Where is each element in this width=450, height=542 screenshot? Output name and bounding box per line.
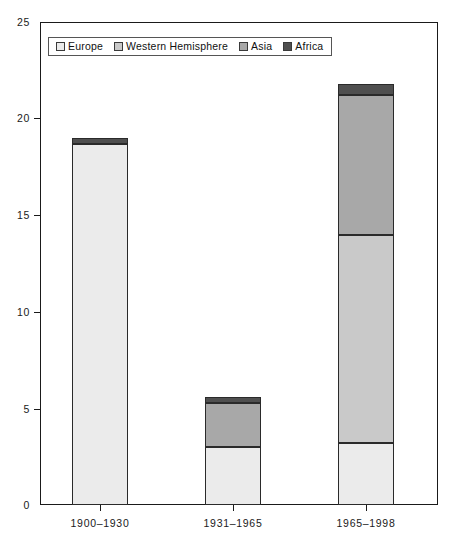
legend-item-europe: Europe <box>56 41 103 52</box>
x-tick-label-1931-1965: 1931–1965 <box>204 517 263 529</box>
legend-swatch-icon-africa <box>283 42 292 51</box>
legend-swatch-icon-western-hemisphere <box>114 42 123 51</box>
y-tick-mark-20 <box>34 118 40 119</box>
legend-swatch-icon-asia <box>239 42 248 51</box>
cut-off-title <box>0 0 450 6</box>
stacked-bar-chart: 25 20 15 10 5 0 <box>0 0 450 542</box>
legend-item-asia: Asia <box>239 41 272 52</box>
x-tick-mark-3 <box>366 505 367 511</box>
y-axis: 25 20 15 10 5 0 <box>0 0 40 542</box>
plot-area <box>40 22 438 505</box>
legend-label-asia: Asia <box>251 41 272 52</box>
x-tick-label-1900-1930: 1900–1930 <box>71 517 130 529</box>
y-tick-label-0: 0 <box>24 499 30 511</box>
legend-swatch-icon-europe <box>56 42 65 51</box>
chart-legend: Europe Western Hemisphere Asia Africa <box>48 37 332 56</box>
y-tick-label-15: 15 <box>17 209 30 221</box>
legend-label-western-hemisphere: Western Hemisphere <box>126 41 228 52</box>
legend-label-europe: Europe <box>68 41 103 52</box>
y-tick-label-5: 5 <box>24 403 30 415</box>
y-tick-label-10: 10 <box>17 306 30 318</box>
x-tick-label-1965-1998: 1965–1998 <box>337 517 396 529</box>
y-tick-label-20: 20 <box>17 112 30 124</box>
legend-item-africa: Africa <box>283 41 323 52</box>
y-tick-mark-15 <box>34 215 40 216</box>
y-tick-mark-5 <box>34 409 40 410</box>
legend-label-africa: Africa <box>295 41 323 52</box>
x-tick-mark-1 <box>100 505 101 511</box>
y-tick-mark-10 <box>34 312 40 313</box>
y-tick-label-25: 25 <box>17 16 30 28</box>
x-tick-mark-2 <box>233 505 234 511</box>
legend-item-western-hemisphere: Western Hemisphere <box>114 41 228 52</box>
